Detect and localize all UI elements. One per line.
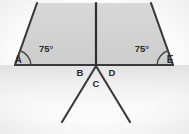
point-label-B: B — [77, 67, 84, 78]
geometry-figure: A E 75° 75° B C D — [0, 0, 189, 134]
angle-label-E-75: 75° — [135, 43, 150, 54]
angle-label-A-75: 75° — [39, 43, 54, 54]
point-label-D: D — [109, 67, 116, 78]
point-label-C: C — [93, 78, 100, 89]
vertex-label-E: E — [167, 54, 174, 65]
shaded-trapezoid-region — [15, 3, 173, 65]
vertex-label-A: A — [14, 54, 21, 65]
geometry-canvas: A E 75° 75° B C D — [0, 0, 189, 134]
lower-shadow-wash — [0, 65, 189, 123]
